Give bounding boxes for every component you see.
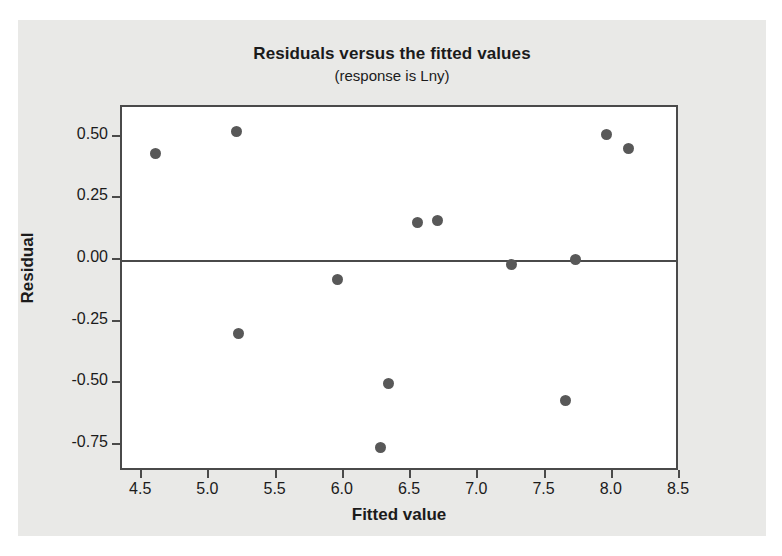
x-tick-label: 6.0 [312, 480, 372, 498]
x-tick-mark [275, 470, 277, 478]
y-tick-mark [112, 196, 120, 198]
data-point [150, 148, 161, 159]
x-tick-label: 5.0 [177, 480, 237, 498]
y-axis-title: Residual [18, 208, 38, 328]
page-title: Residuals versus the fitted values [18, 44, 766, 64]
y-tick-label: -0.50 [44, 371, 108, 389]
y-tick-label: 0.50 [44, 125, 108, 143]
x-tick-mark [611, 470, 613, 478]
data-point [601, 129, 612, 140]
x-tick-label: 8.0 [581, 480, 641, 498]
data-point [332, 274, 343, 285]
y-tick-mark [112, 443, 120, 445]
y-tick-label: 0.00 [44, 248, 108, 266]
x-tick-mark [476, 470, 478, 478]
x-tick-label: 6.5 [379, 480, 439, 498]
data-point [623, 143, 634, 154]
x-tick-label: 7.5 [514, 480, 574, 498]
y-tick-label: -0.25 [44, 310, 108, 328]
data-point [383, 378, 394, 389]
x-tick-mark [207, 470, 209, 478]
x-tick-mark [678, 470, 680, 478]
chart-title-block: Residuals versus the fitted values (resp… [18, 44, 766, 85]
y-tick-mark [112, 320, 120, 322]
x-tick-label: 5.5 [245, 480, 305, 498]
data-point [375, 442, 386, 453]
data-point [412, 217, 423, 228]
figure-root: Residuals versus the fitted values (resp… [0, 0, 782, 556]
x-tick-mark [544, 470, 546, 478]
zero-reference-line [122, 260, 676, 262]
y-axis-ticks: 0.500.250.00-0.25-0.50-0.75 [40, 0, 108, 556]
data-point [506, 259, 517, 270]
y-tick-label: 0.25 [44, 186, 108, 204]
y-tick-mark [112, 258, 120, 260]
x-tick-mark [409, 470, 411, 478]
x-tick-mark [342, 470, 344, 478]
chart-subtitle: (response is Lny) [18, 66, 766, 85]
x-axis-title: Fitted value [120, 505, 678, 525]
data-point [231, 126, 242, 137]
data-point [570, 254, 581, 265]
plot-area [122, 107, 676, 468]
data-point [233, 328, 244, 339]
data-point [432, 215, 443, 226]
x-tick-label: 7.0 [446, 480, 506, 498]
x-tick-label: 8.5 [648, 480, 708, 498]
y-tick-mark [112, 135, 120, 137]
y-tick-mark [112, 381, 120, 383]
x-tick-label: 4.5 [110, 480, 170, 498]
plot-frame [120, 105, 678, 470]
x-tick-mark [140, 470, 142, 478]
y-tick-label: -0.75 [44, 433, 108, 451]
data-point [560, 395, 571, 406]
